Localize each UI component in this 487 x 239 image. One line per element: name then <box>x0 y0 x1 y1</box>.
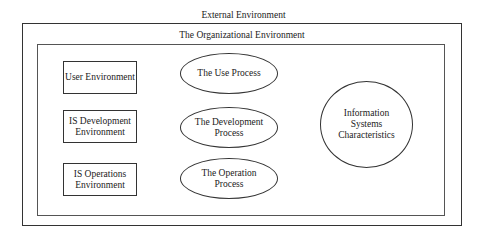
label-line: The Operation <box>201 168 256 179</box>
use-process-label: The Use Process <box>197 68 260 79</box>
is-operations-environment-label: IS Operations Environment <box>74 169 127 191</box>
label-line: IS Operations <box>74 169 127 180</box>
user-environment-box: User Environment <box>63 61 137 94</box>
user-environment-label: User Environment <box>65 72 135 83</box>
label-line: Information <box>338 108 394 119</box>
label-line: Systems <box>338 119 394 130</box>
external-environment-label: External Environment <box>0 10 487 21</box>
label-line: Environment <box>69 127 131 138</box>
use-process-ellipse: The Use Process <box>180 53 278 94</box>
is-development-environment-box: IS Development Environment <box>63 110 137 143</box>
label-line: Environment <box>74 180 127 191</box>
information-systems-characteristics-circle: Information Systems Characteristics <box>320 81 413 168</box>
label-line: Characteristics <box>338 130 394 141</box>
information-systems-characteristics-label: Information Systems Characteristics <box>338 108 394 141</box>
is-development-environment-label: IS Development Environment <box>69 116 131 138</box>
organizational-environment-label: The Organizational Environment <box>22 30 462 41</box>
label-line: Process <box>201 179 256 190</box>
label-line: IS Development <box>69 116 131 127</box>
operation-process-ellipse: The Operation Process <box>180 158 278 199</box>
development-process-ellipse: The Development Process <box>180 107 278 148</box>
label-line: The Development <box>195 117 263 128</box>
is-operations-environment-box: IS Operations Environment <box>63 163 137 196</box>
operation-process-label: The Operation Process <box>201 168 256 190</box>
label-line: Process <box>195 128 263 139</box>
development-process-label: The Development Process <box>195 117 263 139</box>
